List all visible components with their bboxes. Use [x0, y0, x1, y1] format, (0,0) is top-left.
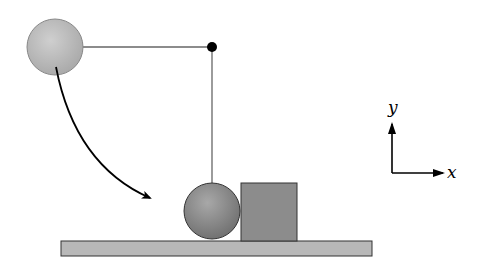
- pivot-point: [207, 42, 217, 52]
- coordinate-axes: y x: [387, 97, 457, 182]
- pendulum-diagram: y x: [0, 0, 481, 269]
- swing-arrow-icon: [56, 67, 150, 198]
- ball-initial-position: [27, 19, 83, 75]
- floor: [61, 241, 372, 256]
- block: [241, 183, 297, 241]
- y-axis-label: y: [387, 97, 398, 117]
- x-axis-label: x: [447, 162, 457, 182]
- ball-final-position: [184, 183, 240, 239]
